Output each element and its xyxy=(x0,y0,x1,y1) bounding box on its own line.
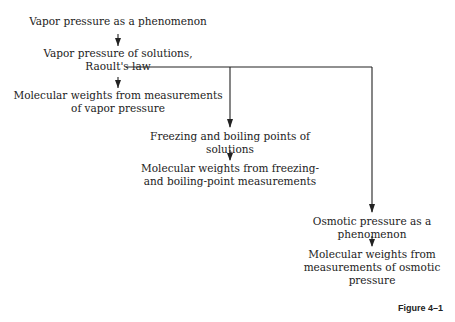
node-freezing-boiling: Freezing and boiling points of solutions xyxy=(130,130,330,156)
node-mw-freezing-boiling: Molecular weights from freezing- and boi… xyxy=(130,162,330,188)
node-vapor-pressure-phenomenon: Vapor pressure as a phenomenon xyxy=(0,15,236,28)
node-osmotic-phenomenon: Osmotic pressure as a phenomenon xyxy=(302,215,442,241)
node-mw-vapor-pressure: Molecular weights from measurements of v… xyxy=(0,89,236,115)
figure-caption: Figure 4–1 xyxy=(398,303,443,313)
node-mw-osmotic: Molecular weights from measurements of o… xyxy=(302,248,442,287)
node-raoults-law: Vapor pressure of solutions, Raoult's la… xyxy=(0,47,236,73)
